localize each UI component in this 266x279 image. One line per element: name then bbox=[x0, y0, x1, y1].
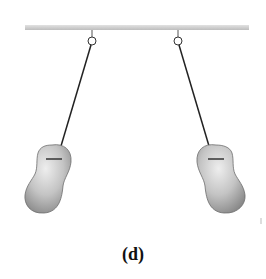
left-hook bbox=[88, 30, 96, 45]
right-hook bbox=[174, 30, 182, 45]
left-string bbox=[61, 45, 91, 146]
electrostatic-diagram bbox=[0, 0, 266, 279]
support-bar bbox=[25, 25, 249, 30]
figure-label: (d) bbox=[0, 244, 266, 265]
right-charged-ball bbox=[197, 145, 245, 213]
right-string bbox=[179, 45, 209, 146]
left-charged-ball bbox=[25, 145, 71, 213]
